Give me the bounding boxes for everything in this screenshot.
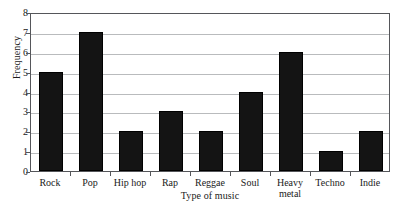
y-tick-label: 3 xyxy=(6,107,28,117)
x-tick-mark xyxy=(230,172,231,176)
y-tick-label: 5 xyxy=(6,68,28,78)
x-tick-mark xyxy=(70,172,71,176)
y-tick-mark xyxy=(26,172,30,173)
x-axis-title: Type of music xyxy=(30,190,390,201)
x-tick-label: Hip hop xyxy=(110,177,150,188)
x-tick-label: Techno xyxy=(310,177,350,188)
x-tick-label: Rock xyxy=(30,177,70,188)
x-tick-label: Soul xyxy=(230,177,270,188)
x-tick-mark xyxy=(190,172,191,176)
bar xyxy=(279,52,304,171)
y-tick-label: 0 xyxy=(6,167,28,177)
y-tick-label: 4 xyxy=(6,88,28,98)
x-tick-label: Rap xyxy=(150,177,190,188)
bar xyxy=(159,111,184,171)
bar xyxy=(239,92,264,172)
bar xyxy=(359,131,384,171)
bar-chart: Frequency 012345678 RockPopHip hopRapReg… xyxy=(0,0,402,206)
y-tick-label: 8 xyxy=(6,8,28,18)
x-tick-mark xyxy=(350,172,351,176)
x-tick-label: Reggae xyxy=(190,177,230,188)
y-tick-label: 1 xyxy=(6,147,28,157)
x-tick-mark xyxy=(310,172,311,176)
x-tick-mark xyxy=(110,172,111,176)
x-tick-label: Pop xyxy=(70,177,110,188)
bar xyxy=(79,32,104,171)
bar xyxy=(39,72,64,171)
y-tick-label: 2 xyxy=(6,127,28,137)
x-tick-mark xyxy=(270,172,271,176)
bar xyxy=(319,151,344,171)
bar xyxy=(119,131,144,171)
x-tick-mark xyxy=(150,172,151,176)
y-tick-label: 6 xyxy=(6,48,28,58)
plot-area xyxy=(30,13,390,172)
bar xyxy=(199,131,224,171)
y-tick-label: 7 xyxy=(6,28,28,38)
x-tick-label: Indie xyxy=(350,177,390,188)
